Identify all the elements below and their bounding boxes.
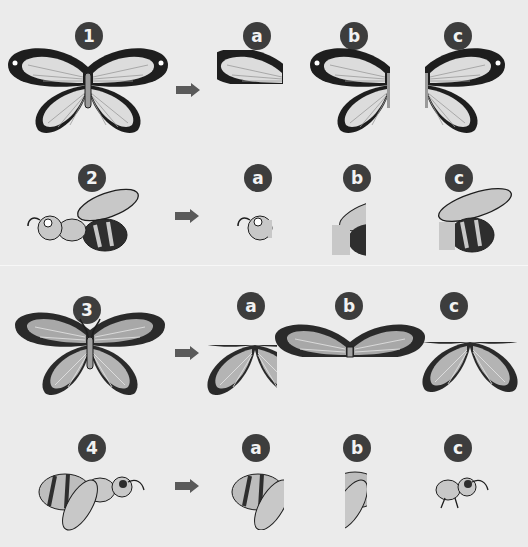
option-c-image[interactable] bbox=[0, 0, 1, 1]
option-b-badge[interactable]: b bbox=[340, 22, 368, 50]
option-b-badge[interactable]: b bbox=[335, 292, 363, 320]
option-c-badge[interactable]: c bbox=[444, 434, 472, 462]
option-b-image[interactable] bbox=[350, 357, 351, 358]
arrow-right-icon bbox=[175, 346, 201, 360]
option-a-badge[interactable]: a bbox=[243, 22, 271, 50]
option-a-badge[interactable]: a bbox=[242, 434, 270, 462]
puzzle-number-badge: 3 bbox=[73, 296, 101, 324]
option-a-badge[interactable]: a bbox=[244, 164, 272, 192]
butterfly-whole-illustration bbox=[88, 85, 89, 86]
option-a-image[interactable] bbox=[255, 345, 256, 346]
option-b-image[interactable] bbox=[390, 85, 391, 86]
puzzle-number-badge: 4 bbox=[78, 434, 106, 462]
section-divider bbox=[0, 265, 528, 266]
puzzle-number-badge: 1 bbox=[75, 22, 103, 50]
option-a-image[interactable] bbox=[287, 85, 288, 86]
butterfly-whole-illustration bbox=[90, 345, 91, 346]
arrow-right-icon bbox=[176, 83, 202, 97]
option-b-badge[interactable]: b bbox=[343, 164, 371, 192]
option-c-badge[interactable]: c bbox=[445, 164, 473, 192]
puzzle-number-badge: 2 bbox=[78, 164, 106, 192]
arrow-right-icon bbox=[175, 209, 201, 223]
option-c-image[interactable] bbox=[470, 342, 471, 343]
arrow-right-icon bbox=[175, 479, 201, 493]
option-b-badge[interactable]: b bbox=[343, 434, 371, 462]
option-c-image[interactable] bbox=[425, 85, 426, 86]
option-c-badge[interactable]: c bbox=[440, 292, 468, 320]
option-a-badge[interactable]: a bbox=[237, 292, 265, 320]
option-c-badge[interactable]: c bbox=[444, 22, 472, 50]
